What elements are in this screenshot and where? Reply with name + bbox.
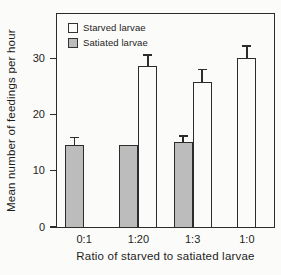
error-bar-cap-satiated-larvae-0-1 bbox=[70, 137, 79, 138]
bar-satiated-larvae-1-3 bbox=[174, 142, 193, 227]
x-axis-title: Ratio of starved to satiated larvae bbox=[56, 250, 275, 262]
error-bar-starved-larvae-1-0 bbox=[246, 45, 247, 58]
plot-area: Starved larvaeSatiated larvae bbox=[56, 13, 275, 228]
x-tick-label-1-3: 1:3 bbox=[171, 233, 215, 245]
x-tick-label-0-1: 0:1 bbox=[62, 233, 106, 245]
legend-item-satiated-larvae: Satiated larvae bbox=[68, 37, 148, 48]
y-tick-label-0: 0 bbox=[15, 221, 45, 234]
legend: Starved larvaeSatiated larvae bbox=[68, 22, 148, 52]
figure: Mean number of feedings per hour 0102030… bbox=[0, 0, 281, 275]
legend-swatch-satiated-larvae bbox=[68, 38, 78, 48]
bar-satiated-larvae-0-1 bbox=[65, 145, 84, 227]
legend-label-starved-larvae: Starved larvae bbox=[83, 22, 146, 33]
x-tick-label-1-0: 1:0 bbox=[225, 233, 269, 245]
y-tick-label-10: 10 bbox=[15, 164, 45, 177]
x-axis: 0:11:201:31:0 bbox=[57, 233, 273, 247]
error-bar-starved-larvae-1-20 bbox=[147, 54, 148, 66]
error-bar-cap-satiated-larvae-1-3 bbox=[179, 135, 188, 136]
x-tick-label-1-20: 1:20 bbox=[116, 233, 160, 245]
error-bar-cap-starved-larvae-1-20 bbox=[143, 54, 152, 55]
y-tick-label-20: 20 bbox=[15, 108, 45, 121]
error-bar-starved-larvae-1-3 bbox=[201, 69, 202, 82]
y-axis: 0102030 bbox=[0, 14, 56, 226]
bar-starved-larvae-1-20 bbox=[138, 66, 157, 227]
bar-starved-larvae-1-0 bbox=[237, 58, 256, 227]
legend-swatch-starved-larvae bbox=[68, 23, 78, 33]
bar-starved-larvae-1-3 bbox=[193, 82, 212, 227]
error-bar-cap-starved-larvae-1-0 bbox=[242, 45, 251, 46]
legend-label-satiated-larvae: Satiated larvae bbox=[83, 37, 148, 48]
y-tick-label-30: 30 bbox=[15, 52, 45, 65]
error-bar-cap-starved-larvae-1-3 bbox=[198, 69, 207, 70]
legend-item-starved-larvae: Starved larvae bbox=[68, 22, 148, 33]
bar-satiated-larvae-1-20 bbox=[119, 145, 138, 227]
